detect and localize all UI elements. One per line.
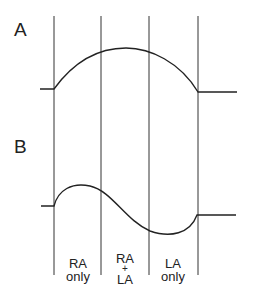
panel-label-a: A [14, 20, 27, 39]
waveform-b [41, 185, 236, 234]
waveform-a [40, 48, 237, 92]
region-label-line: LA [102, 273, 148, 286]
region-label-line: only [150, 270, 196, 283]
region-label-ra-only: RA only [55, 257, 101, 283]
region-label-ra-plus-la: RA + LA [102, 252, 148, 286]
region-label-line: only [55, 270, 101, 283]
region-label-la-only: LA only [150, 257, 196, 283]
panel-label-b: B [14, 137, 27, 156]
